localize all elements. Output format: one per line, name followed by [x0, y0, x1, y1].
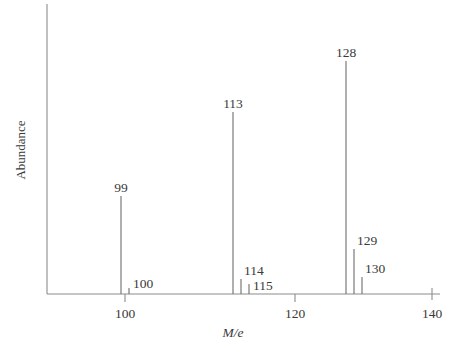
peak-label-128: 128: [336, 45, 357, 60]
x-tick-label-120: 120: [285, 306, 306, 321]
x-axis-tick-labels: 100 120 140: [115, 306, 443, 321]
y-axis-title: Abundance: [13, 120, 28, 179]
peak-label-99: 99: [114, 180, 128, 195]
mass-spectrum-chart: 100 120 140 99 100 113 114 115 128 129 1…: [0, 0, 465, 350]
peak-label-114: 114: [244, 263, 264, 278]
x-axis-title: M/e: [222, 325, 244, 340]
mass-spectrum-plot: 100 120 140 99 100 113 114 115 128 129 1…: [0, 0, 465, 350]
peak-label-130: 130: [365, 261, 386, 276]
peak-label-115: 115: [253, 278, 273, 293]
x-tick-label-100: 100: [115, 306, 136, 321]
x-tick-label-140: 140: [422, 306, 443, 321]
peak-labels: 99 100 113 114 115 128 129 130: [114, 45, 385, 293]
peak-label-113: 113: [223, 96, 243, 111]
x-axis-ticks: [125, 288, 432, 302]
peak-label-129: 129: [357, 233, 378, 248]
peak-label-100: 100: [133, 276, 154, 291]
